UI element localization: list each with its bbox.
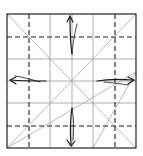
origami-crease-diagram xyxy=(0,0,143,156)
arrow-down-icon xyxy=(67,108,75,146)
arrow-left-icon xyxy=(10,76,46,84)
